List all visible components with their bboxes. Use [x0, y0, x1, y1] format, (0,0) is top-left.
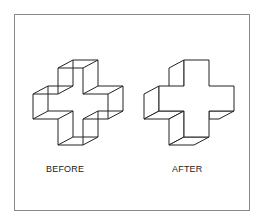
after-cross	[144, 60, 234, 145]
figure-drawing	[0, 0, 266, 221]
before-label: BEFORE	[46, 164, 84, 174]
before-cross	[33, 60, 123, 145]
after-label: AFTER	[172, 164, 203, 174]
